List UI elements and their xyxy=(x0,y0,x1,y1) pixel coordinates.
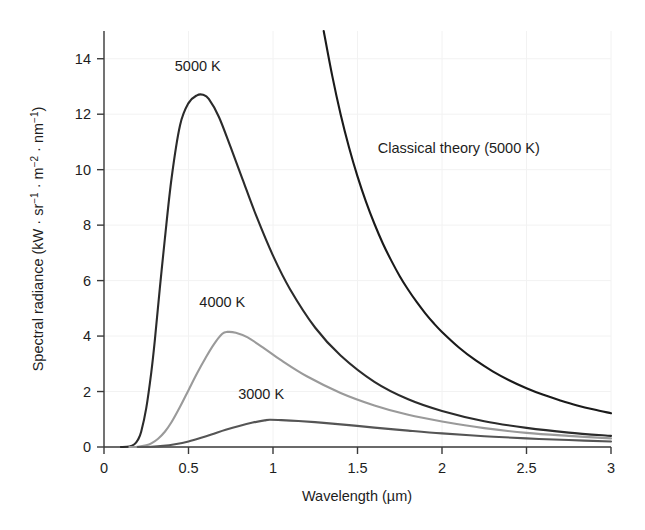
x-tick-label: 2.5 xyxy=(516,460,536,476)
y-tick-label: 8 xyxy=(83,217,91,233)
x-tick-label: 0.5 xyxy=(178,460,198,476)
chart-background xyxy=(0,0,645,530)
blackbody-radiation-chart: 00.511.522.53 02468101214 Classical theo… xyxy=(0,0,645,530)
x-tick-label: 2 xyxy=(438,460,446,476)
x-axis-title: Wavelength (µm) xyxy=(302,488,412,504)
y-tick-label: 4 xyxy=(83,328,91,344)
y-tick-label: 10 xyxy=(75,162,91,178)
label-5000-k: 5000 K xyxy=(175,58,221,74)
y-tick-label: 14 xyxy=(75,51,91,67)
x-tick-label: 1.5 xyxy=(347,460,367,476)
x-tick-label: 1 xyxy=(269,460,277,476)
chart-canvas: 00.511.522.53 02468101214 Classical theo… xyxy=(0,0,645,530)
label-4000-k: 4000 K xyxy=(199,294,245,310)
y-axis-title: Spectral radiance (kW · sr−1 · m−2 · nm−… xyxy=(29,107,47,372)
y-tick-label: 12 xyxy=(75,106,91,122)
y-tick-label: 2 xyxy=(83,384,91,400)
label-3000-k: 3000 K xyxy=(238,386,284,402)
y-tick-label: 6 xyxy=(83,273,91,289)
x-tick-label: 3 xyxy=(607,460,615,476)
label-classical-theory-5000-k: Classical theory (5000 K) xyxy=(378,140,540,156)
x-tick-label: 0 xyxy=(100,460,108,476)
y-tick-label: 0 xyxy=(83,439,91,455)
